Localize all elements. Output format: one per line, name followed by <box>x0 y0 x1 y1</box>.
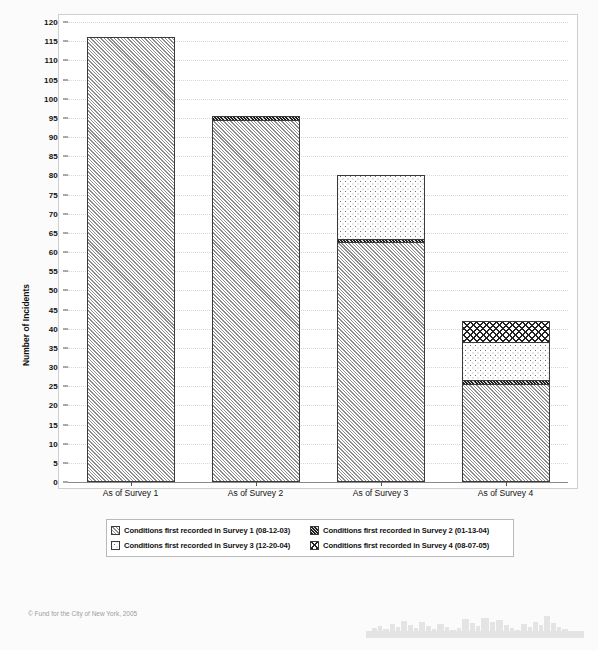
y-tick-label: 100 <box>18 94 58 103</box>
y-tick-mark <box>63 252 68 253</box>
y-tick-label: 45 <box>18 305 58 314</box>
x-tick-label-2: As of Survey 2 <box>228 488 283 498</box>
y-tick-mark <box>63 232 68 233</box>
bar-4[interactable] <box>462 321 550 482</box>
chart-legend: Conditions first recorded in Survey 1 (0… <box>106 519 514 557</box>
y-tick-mark <box>63 271 68 272</box>
bar-3-segment-survey-2 <box>338 240 424 244</box>
y-tick-mark <box>63 443 68 444</box>
y-tick-mark <box>63 137 68 138</box>
legend-swatch-survey-2-icon <box>310 526 319 535</box>
y-tick-label: 60 <box>18 248 58 257</box>
y-tick-label: 25 <box>18 382 58 391</box>
legend-label-survey-4: Conditions first recorded in Survey 4 (0… <box>323 541 489 550</box>
y-tick-label: 65 <box>18 228 58 237</box>
y-tick-mark <box>63 156 68 157</box>
x-tick-mark <box>131 482 132 486</box>
y-tick-mark <box>63 194 68 195</box>
footer-credit: © Fund for the City of New York, 2005 <box>28 610 137 617</box>
bar-3[interactable] <box>337 175 425 482</box>
legend-item-survey-4: Conditions first recorded in Survey 4 (0… <box>310 541 509 550</box>
y-tick-label: 70 <box>18 209 58 218</box>
y-tick-label: 85 <box>18 152 58 161</box>
y-tick-mark <box>63 98 68 99</box>
legend-label-survey-2: Conditions first recorded in Survey 2 (0… <box>323 526 489 535</box>
y-tick-mark <box>63 462 68 463</box>
legend-item-survey-1: Conditions first recorded in Survey 1 (0… <box>111 526 310 535</box>
y-tick-label: 115 <box>18 37 58 46</box>
x-tick-mark <box>506 482 507 486</box>
y-tick-mark <box>63 117 68 118</box>
bar-3-segment-survey-3 <box>338 175 424 239</box>
legend-label-survey-1: Conditions first recorded in Survey 1 (0… <box>124 526 290 535</box>
y-tick-mark <box>63 213 68 214</box>
y-tick-label: 95 <box>18 113 58 122</box>
y-tick-mark <box>63 41 68 42</box>
y-tick-label: 80 <box>18 171 58 180</box>
plot-area: 0510152025303540455055606570758085909510… <box>68 22 568 482</box>
legend-swatch-survey-4-icon <box>310 541 319 550</box>
legend-label-survey-3: Conditions first recorded in Survey 3 (1… <box>124 541 290 550</box>
legend-row: Conditions first recorded in Survey 3 (1… <box>111 538 509 553</box>
y-tick-mark <box>63 309 68 310</box>
y-tick-mark <box>63 60 68 61</box>
legend-swatch-survey-1-icon <box>111 526 120 535</box>
city-skyline-icon <box>366 604 584 638</box>
y-tick-mark <box>63 328 68 329</box>
legend-item-survey-3: Conditions first recorded in Survey 3 (1… <box>111 541 310 550</box>
bar-2-segment-survey-2 <box>213 116 299 121</box>
y-tick-label: 120 <box>18 18 58 27</box>
y-tick-label: 5 <box>18 458 58 467</box>
y-tick-label: 40 <box>18 324 58 333</box>
y-tick-label: 20 <box>18 401 58 410</box>
x-tick-mark <box>256 482 257 486</box>
legend-item-survey-2: Conditions first recorded in Survey 2 (0… <box>310 526 509 535</box>
legend-swatch-survey-3-icon <box>111 541 120 550</box>
y-tick-label: 15 <box>18 420 58 429</box>
bar-4-segment-survey-2 <box>463 381 549 385</box>
y-tick-mark <box>63 347 68 348</box>
y-tick-mark <box>63 290 68 291</box>
bar-2-segment-survey-1 <box>213 121 299 481</box>
y-tick-label: 35 <box>18 343 58 352</box>
y-tick-label: 0 <box>18 478 58 487</box>
y-tick-mark <box>63 22 68 23</box>
x-tick-label-3: As of Survey 3 <box>353 488 408 498</box>
y-tick-mark <box>63 424 68 425</box>
y-tick-mark <box>63 367 68 368</box>
chart-page: Number of Incidents 05101520253035404550… <box>0 0 598 650</box>
y-tick-mark <box>63 386 68 387</box>
y-tick-mark <box>63 175 68 176</box>
x-tick-label-4: As of Survey 4 <box>478 488 533 498</box>
y-tick-label: 110 <box>18 56 58 65</box>
y-tick-label: 105 <box>18 75 58 84</box>
y-tick-label: 50 <box>18 286 58 295</box>
legend-row: Conditions first recorded in Survey 1 (0… <box>111 523 509 538</box>
x-tick-label-1: As of Survey 1 <box>103 488 158 498</box>
y-tick-mark <box>63 79 68 80</box>
bar-4-segment-survey-3 <box>463 343 549 381</box>
y-tick-label: 90 <box>18 133 58 142</box>
y-tick-label: 75 <box>18 190 58 199</box>
bar-4-segment-survey-4 <box>463 321 549 343</box>
bar-1[interactable] <box>87 37 175 482</box>
bar-3-segment-survey-1 <box>338 243 424 481</box>
y-tick-mark <box>63 405 68 406</box>
gridline <box>68 22 568 23</box>
bar-4-segment-survey-1 <box>463 385 549 481</box>
x-tick-mark <box>381 482 382 486</box>
bar-2[interactable] <box>212 116 300 482</box>
y-tick-label: 10 <box>18 439 58 448</box>
x-axis: As of Survey 1As of Survey 2As of Survey… <box>68 482 568 504</box>
bar-1-segment-survey-1 <box>88 37 174 481</box>
y-tick-label: 55 <box>18 267 58 276</box>
y-tick-label: 30 <box>18 363 58 372</box>
